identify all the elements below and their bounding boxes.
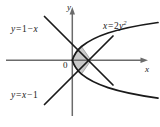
label-upper-rhs-b: x [34, 24, 38, 34]
line-y-equals-x-minus-1 [45, 36, 114, 105]
y-axis-label: y [67, 2, 71, 12]
x-axis-label: x [145, 64, 149, 74]
label-lower-rhs-b: 1 [33, 90, 38, 100]
origin-label: 0 [63, 60, 68, 70]
label-parabola-x-equals-2y-squared: x=2y2 [103, 21, 127, 31]
label-parabola-exponent: 2 [123, 19, 126, 26]
label-line-y-equals-1-minus-x: y=1−x [11, 24, 38, 34]
label-line-y-equals-x-minus-1: y=x−1 [11, 90, 38, 100]
graph-figure: y=1−x y=x−1 x=2y2 x y 0 [0, 0, 160, 127]
coordinate-plot [0, 0, 160, 127]
x-axis-arrowhead [141, 58, 149, 63]
